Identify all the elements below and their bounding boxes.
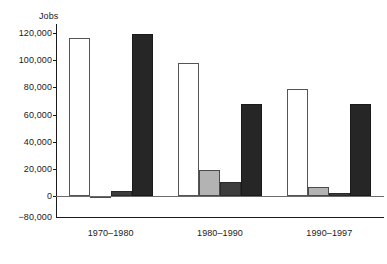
bar [90,196,111,198]
y-tick-label: 60,000 [24,110,52,120]
bar [350,104,371,196]
y-tick-label: 100,000 [19,55,52,65]
x-tick-label: 1970–1980 [88,228,134,238]
y-tick-mark [53,142,56,143]
y-tick-mark [53,169,56,170]
bar [132,34,153,196]
y-tick-label: 20,000 [24,164,52,174]
x-tick-label: 1990–1997 [306,228,352,238]
bar [308,187,329,196]
y-tick-label: 80,000 [24,82,52,92]
bar [287,89,308,196]
y-tick-label: −80,000 [19,212,52,222]
bar [111,191,132,196]
y-tick-label: 120,000 [19,28,52,38]
bar [178,63,199,196]
x-tick-label: 1980–1990 [197,228,243,238]
y-tick-mark [53,87,56,88]
bar [69,38,90,196]
bar [329,193,350,196]
y-tick-label: 0 [47,191,52,201]
y-axis-tick-labels: 120,000100,00080,00060,00040,00020,0000−… [0,0,52,264]
x-axis-line [56,217,384,218]
bar [199,170,220,196]
y-tick-label: 40,000 [24,137,52,147]
y-tick-mark [53,196,56,197]
y-tick-mark [53,115,56,116]
y-tick-mark [53,60,56,61]
y-tick-mark [53,33,56,34]
bar [220,182,241,196]
chart-figure: Jobs 120,000100,00080,00060,00040,00020,… [0,0,387,264]
bar [241,104,262,196]
